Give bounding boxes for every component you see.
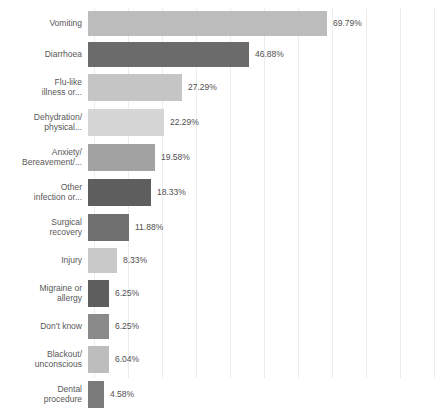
bar[interactable]	[88, 248, 117, 273]
bar-track: 18.33%	[88, 175, 441, 209]
bar-row: Don't know6.25%	[0, 311, 441, 341]
bar-value-label: 6.25%	[115, 288, 139, 298]
bar-value-label: 6.04%	[115, 354, 139, 364]
category-label: Don't know	[0, 321, 88, 331]
bar-track: 11.88%	[88, 210, 441, 244]
bar-row: Other infection or...18.33%	[0, 175, 441, 209]
bar-track: 6.25%	[88, 276, 441, 310]
category-label: Migraine or allergy	[0, 283, 88, 303]
bar-rows-container: Vomiting69.79%Diarrhoea46.88%Flu-like il…	[0, 8, 441, 412]
bar-track: 6.25%	[88, 311, 441, 341]
bar[interactable]	[88, 346, 109, 373]
bar-track: 6.04%	[88, 342, 441, 376]
bar-track: 22.29%	[88, 105, 441, 139]
bar-value-label: 6.25%	[115, 321, 139, 331]
category-label: Injury	[0, 255, 88, 265]
bar-value-label: 19.58%	[161, 152, 190, 162]
bar[interactable]	[88, 109, 164, 136]
bar-row: Anxiety/ Bereavement/...19.58%	[0, 140, 441, 174]
bar-row: Vomiting69.79%	[0, 8, 441, 38]
bar-track: 46.88%	[88, 39, 441, 69]
bar-value-label: 46.88%	[255, 49, 284, 59]
bar-value-label: 27.29%	[188, 82, 217, 92]
bar[interactable]	[88, 381, 104, 408]
bar[interactable]	[88, 42, 249, 67]
bar-row: Dehydration/ physical...22.29%	[0, 105, 441, 139]
category-label: Anxiety/ Bereavement/...	[0, 147, 88, 167]
category-label: Other infection or...	[0, 182, 88, 202]
category-label: Dehydration/ physical...	[0, 112, 88, 132]
bar-row: Injury8.33%	[0, 245, 441, 275]
bar-track: 19.58%	[88, 140, 441, 174]
bar-row: Dental procedure4.58%	[0, 377, 441, 411]
bar-value-label: 8.33%	[123, 255, 147, 265]
category-label: Vomiting	[0, 18, 88, 28]
bar[interactable]	[88, 11, 327, 36]
bar[interactable]	[88, 179, 151, 206]
bar-track: 27.29%	[88, 70, 441, 104]
category-label: Diarrhoea	[0, 49, 88, 59]
category-label: Surgical recovery	[0, 217, 88, 237]
bar[interactable]	[88, 214, 129, 241]
bar-value-label: 11.88%	[135, 222, 163, 232]
category-label: Blackout/ unconscious	[0, 349, 88, 369]
bar-row: Migraine or allergy6.25%	[0, 276, 441, 310]
bar-value-label: 4.58%	[110, 389, 134, 399]
bar[interactable]	[88, 144, 155, 171]
bar-row: Diarrhoea46.88%	[0, 39, 441, 69]
bar[interactable]	[88, 280, 109, 307]
bar-value-label: 69.79%	[333, 18, 362, 28]
bar[interactable]	[88, 74, 182, 101]
bar-track: 4.58%	[88, 377, 441, 411]
bar-track: 8.33%	[88, 245, 441, 275]
category-label: Flu-like illness or...	[0, 77, 88, 97]
bar-row: Blackout/ unconscious6.04%	[0, 342, 441, 376]
bar[interactable]	[88, 314, 109, 339]
bar-value-label: 18.33%	[157, 187, 186, 197]
bar-row: Flu-like illness or...27.29%	[0, 70, 441, 104]
bar-track: 69.79%	[88, 8, 441, 38]
bar-row: Surgical recovery11.88%	[0, 210, 441, 244]
category-label: Dental procedure	[0, 384, 88, 404]
bar-value-label: 22.29%	[170, 117, 199, 127]
